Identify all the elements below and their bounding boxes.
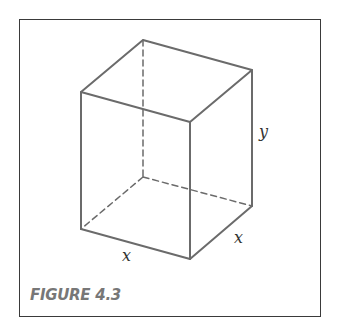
hidden-edges — [81, 40, 252, 229]
figure-caption: FIGURE 4.3 — [30, 286, 121, 304]
visible-edges — [81, 40, 252, 259]
box-diagram — [0, 0, 341, 330]
height-label: y — [259, 122, 268, 141]
depth-label: x — [234, 228, 243, 247]
width-label: x — [122, 246, 131, 265]
